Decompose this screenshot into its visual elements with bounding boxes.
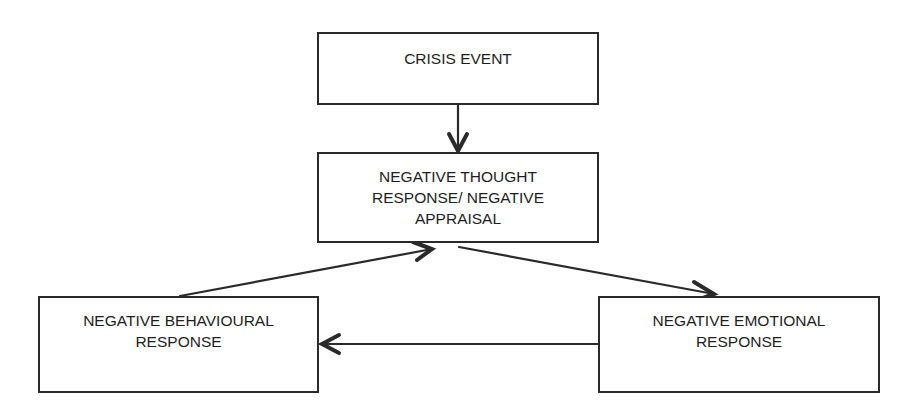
node-label-line: NEGATIVE BEHAVIOURAL xyxy=(40,310,317,331)
node-negative-thought: NEGATIVE THOUGHT RESPONSE/ NEGATIVE APPR… xyxy=(317,152,599,243)
node-label-line: APPRAISAL xyxy=(319,208,597,229)
arrow-behaviour-to-thought xyxy=(180,242,432,296)
node-negative-emotional: NEGATIVE EMOTIONAL RESPONSE xyxy=(598,296,880,393)
node-label-line: RESPONSE xyxy=(600,331,878,352)
node-label: CRISIS EVENT xyxy=(319,48,597,69)
node-label-line: RESPONSE/ NEGATIVE xyxy=(319,187,597,208)
node-negative-behavioural: NEGATIVE BEHAVIOURAL RESPONSE xyxy=(38,296,319,393)
node-label-line: NEGATIVE THOUGHT xyxy=(319,166,597,187)
arrow-thought-to-emotion xyxy=(459,247,714,301)
arrow-crisis-to-thought xyxy=(449,104,467,151)
node-label-line: RESPONSE xyxy=(40,331,317,352)
arrow-emotion-to-behaviour xyxy=(322,335,598,353)
node-crisis-event: CRISIS EVENT xyxy=(317,32,599,105)
node-label-line: NEGATIVE EMOTIONAL xyxy=(600,310,878,331)
